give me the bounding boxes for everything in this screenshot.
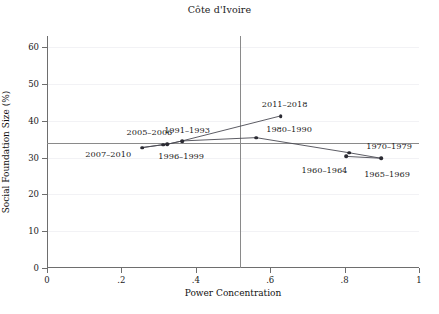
x-tick — [121, 268, 122, 273]
data-point-label: 2007–2010 — [85, 149, 131, 159]
data-point[interactable] — [140, 146, 144, 150]
data-point[interactable] — [254, 136, 258, 140]
chart-root: Côte d'Ivoire 0102030405060 0.2.4.6.81 1… — [0, 0, 439, 314]
data-point[interactable] — [165, 142, 169, 146]
x-axis-title: Power Concentration — [47, 288, 419, 298]
data-point[interactable] — [347, 151, 351, 155]
data-point-label: 1980–1990 — [266, 124, 312, 134]
data-point-label: 2011–2018 — [262, 99, 308, 109]
y-tick-label: 30 — [28, 153, 39, 163]
x-tick-label: 1 — [416, 275, 421, 285]
data-point[interactable] — [279, 114, 283, 118]
data-point[interactable] — [162, 143, 166, 147]
x-tick — [419, 268, 420, 273]
data-point[interactable] — [180, 139, 184, 143]
x-tick-label: .8 — [341, 275, 349, 285]
y-tick-label: 40 — [28, 116, 39, 126]
data-point[interactable] — [379, 156, 383, 160]
x-tick — [196, 268, 197, 273]
data-point-label: 1965–1969 — [364, 169, 410, 179]
y-tick-label: 10 — [28, 226, 39, 236]
data-point-label: 1970–1979 — [366, 141, 412, 151]
x-tick — [345, 268, 346, 273]
x-tick-label: 0 — [44, 275, 49, 285]
x-tick — [270, 268, 271, 273]
data-point-label: 2005–2006 — [127, 127, 173, 137]
data-point[interactable] — [345, 155, 349, 159]
x-tick-label: .2 — [117, 275, 125, 285]
y-axis-title: Social Foundation Size (%) — [1, 91, 11, 214]
x-tick-label: .6 — [266, 275, 274, 285]
plot-area: 0102030405060 0.2.4.6.81 1960–19641965–1… — [47, 36, 419, 268]
y-tick-label: 60 — [28, 42, 39, 52]
chart-title: Côte d'Ivoire — [0, 4, 439, 15]
x-tick — [47, 268, 48, 273]
x-tick-label: .4 — [192, 275, 200, 285]
data-point-label: 1960–1964 — [302, 165, 348, 175]
y-tick-label: 50 — [28, 79, 39, 89]
y-tick-label: 20 — [28, 189, 39, 199]
data-point-label: 1996–1999 — [158, 151, 204, 161]
y-tick-label: 0 — [34, 263, 39, 273]
